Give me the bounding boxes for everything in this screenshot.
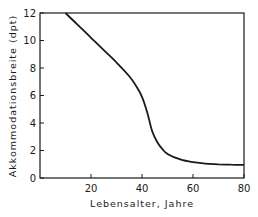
- x-axis-ticks: 20406080: [85, 174, 251, 194]
- y-axis-ticks: 024681012: [23, 8, 44, 184]
- y-tick-label: 6: [30, 90, 36, 101]
- y-tick-label: 12: [23, 8, 36, 19]
- accommodation-curve: [66, 13, 245, 165]
- x-axis-title: Lebensalter, Jahre: [90, 198, 194, 209]
- accommodation-chart: 024681012 20406080 Lebensalter, Jahre Ak…: [0, 0, 258, 217]
- y-tick-label: 8: [30, 63, 36, 74]
- y-tick-label: 10: [23, 35, 36, 46]
- y-tick-label: 0: [30, 173, 36, 184]
- y-tick-label: 4: [30, 118, 36, 129]
- x-tick-label: 40: [136, 183, 149, 194]
- y-axis-title: Akkommodationsbreite (dpt): [7, 15, 18, 177]
- x-tick-label: 60: [187, 183, 200, 194]
- x-tick-label: 20: [85, 183, 98, 194]
- x-tick-label: 80: [238, 183, 251, 194]
- y-tick-label: 2: [30, 145, 36, 156]
